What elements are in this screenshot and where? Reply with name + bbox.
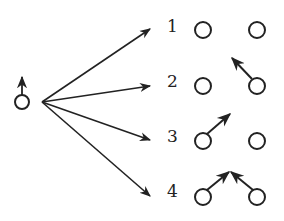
left-particle-icon — [195, 189, 211, 205]
branch-arrow-3-icon — [42, 102, 150, 140]
spin-up-right-arrow-icon — [207, 114, 230, 134]
right-particle-icon — [249, 78, 265, 94]
configuration-label: 4 — [167, 181, 178, 201]
right-particle-icon — [249, 133, 265, 149]
branch-arrow-4-icon — [42, 102, 150, 196]
branch-arrow-2-icon — [42, 86, 150, 102]
spin-up-left-arrow-icon — [232, 58, 252, 79]
configuration-4: 4 — [167, 172, 265, 205]
spin-up-left-arrow-icon — [231, 172, 253, 190]
left-particle-icon — [195, 133, 211, 149]
configuration-1: 1 — [167, 16, 265, 38]
left-particle-icon — [195, 22, 211, 38]
source-particle — [15, 77, 29, 109]
configuration-2: 2 — [167, 58, 265, 94]
spin-up-right-arrow-icon — [207, 172, 229, 190]
diagram: 1 2 3 4 — [0, 0, 284, 221]
diagram-canvas: 1 2 3 4 — [0, 0, 284, 221]
configuration-label: 3 — [167, 126, 178, 146]
left-particle-icon — [195, 78, 211, 94]
branch-arrows — [42, 29, 150, 196]
right-particle-icon — [249, 189, 265, 205]
configuration-3: 3 — [167, 114, 265, 149]
branch-arrow-1-icon — [42, 29, 150, 102]
configuration-label: 2 — [167, 71, 178, 91]
configuration-label: 1 — [167, 16, 178, 36]
right-particle-icon — [249, 22, 265, 38]
particle-circle-icon — [15, 95, 29, 109]
